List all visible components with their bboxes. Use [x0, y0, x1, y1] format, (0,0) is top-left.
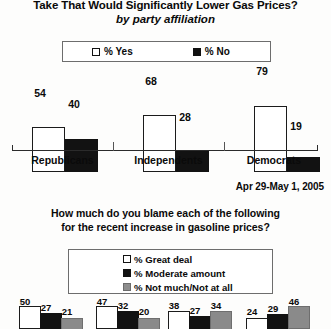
gray-square-icon — [123, 283, 131, 291]
section-title-blame: How much do you blame each of the follow… — [0, 207, 331, 234]
x-axis-line — [12, 150, 318, 151]
legend-item-moderate-amount: % Moderate amount — [123, 266, 272, 280]
bar-value-dem-no: 19 — [282, 120, 310, 132]
bar-g4-moderate — [267, 314, 289, 329]
bar-value-g3-great: 38 — [163, 300, 185, 311]
legend-item-not-much: % Not much/Not at all — [123, 280, 272, 294]
bar-g4-not-much — [288, 306, 310, 329]
axis-cap-right — [317, 145, 318, 151]
bar-g4-great — [246, 318, 268, 329]
legend-item-yes: % Yes — [92, 46, 133, 57]
axis-separator-2 — [224, 142, 225, 151]
section-title-line-1: How much do you blame each of the follow… — [0, 207, 331, 221]
bar-value-dem-yes: 79 — [248, 65, 276, 77]
legend-party-affiliation: % Yes % No — [62, 41, 271, 62]
legend-label-moderate-amount: % Moderate amount — [134, 268, 225, 279]
bar-value-g1-moderate: 27 — [35, 302, 57, 313]
bar-value-rep-yes: 54 — [26, 87, 54, 99]
black-square-icon — [123, 269, 131, 277]
legend-label-yes: % Yes — [104, 46, 133, 57]
bar-g1-not-much — [61, 318, 83, 329]
page-subtitle: by party affiliation — [0, 13, 331, 26]
bar-value-rep-no: 40 — [60, 98, 88, 110]
bar-value-g4-great: 24 — [241, 306, 263, 317]
bar-value-g2-moderate: 32 — [112, 300, 134, 311]
bar-value-g2-not-much: 20 — [133, 306, 155, 317]
legend-label-no: % No — [205, 46, 230, 57]
bar-g3-moderate — [189, 316, 211, 329]
legend-item-no: % No — [193, 46, 230, 57]
white-square-icon — [123, 255, 131, 263]
bar-value-ind-no: 28 — [171, 111, 199, 123]
legend-blame-categories: % Great deal % Moderate amount % Not muc… — [68, 249, 273, 294]
group-label-democrats: Democrats — [226, 154, 322, 166]
bar-value-g1-not-much: 21 — [56, 306, 78, 317]
section-title-line-2: for the recent increase in gasoline pric… — [0, 221, 331, 235]
group-label-independents: Independents — [118, 154, 219, 166]
bar-chart-blame: 50 27 21 47 32 20 38 27 34 24 29 46 — [0, 296, 331, 329]
survey-date: Apr 29-May 1, 2005 — [0, 181, 324, 192]
group-label-republicans: Republicans — [12, 154, 113, 166]
poll-chart-page: Take That Would Significantly Lower Gas … — [0, 0, 331, 329]
white-square-icon — [92, 48, 100, 56]
legend-label-great-deal: % Great deal — [134, 254, 192, 265]
bar-chart-party-affiliation: 54 40 68 28 79 19 Republicans Independen… — [0, 62, 331, 172]
bar-value-ind-yes: 68 — [137, 75, 165, 87]
page-title: Take That Would Significantly Lower Gas … — [0, 0, 331, 12]
bar-value-g3-moderate: 27 — [184, 305, 206, 316]
axis-cap-left — [12, 145, 13, 151]
legend-item-great-deal: % Great deal — [123, 252, 272, 266]
black-square-icon — [193, 48, 201, 56]
bar-value-g3-not-much: 34 — [205, 300, 227, 311]
bar-value-g4-moderate: 29 — [262, 303, 284, 314]
legend-label-not-much: % Not much/Not at all — [134, 282, 233, 293]
bar-g3-not-much — [210, 311, 232, 329]
bar-g2-not-much — [138, 318, 160, 329]
axis-separator-1 — [113, 142, 114, 151]
